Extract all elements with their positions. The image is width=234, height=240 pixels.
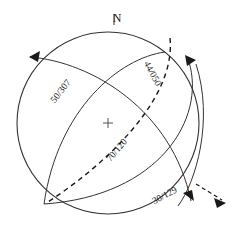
plane-label-70-120: 70/120 <box>104 137 129 164</box>
plunge-arrow-dashed-icon <box>196 184 226 208</box>
great-circle-50-307 <box>44 52 165 204</box>
dip-arrow-upper-left-icon <box>29 51 40 62</box>
center-cross-marker <box>103 118 113 128</box>
plane-label-50-307: 50/307 <box>49 77 73 104</box>
great-circle-44-050 <box>30 57 191 201</box>
stereonet-canvas: N 50/307 44/050 30/129 70/120 <box>0 0 234 240</box>
plane-label-30-129: 30/129 <box>151 185 179 206</box>
north-label: N <box>113 11 122 25</box>
plane-label-44-050: 44/050 <box>142 60 163 88</box>
stereonet-figure: N 50/307 44/050 30/129 70/120 <box>0 0 234 240</box>
dip-arrow-upper-right-icon <box>185 55 196 66</box>
